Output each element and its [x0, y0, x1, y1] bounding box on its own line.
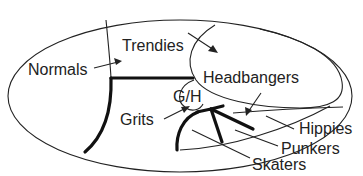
- label-hippies: Hippies: [299, 120, 352, 137]
- label-trendies: Trendies: [122, 37, 184, 54]
- grits-arrow: [164, 106, 190, 119]
- headbangers-ellipse: [190, 25, 342, 108]
- peer-crowd-diagram: Normals Trendies Headbangers G/H Grits H…: [0, 0, 363, 176]
- punkers-leader: [235, 130, 278, 146]
- label-punkers: Punkers: [281, 140, 340, 157]
- label-headbangers: Headbangers: [203, 69, 299, 86]
- label-skaters: Skaters: [252, 156, 306, 173]
- headbangers-arrow: [245, 93, 261, 116]
- hippies-leader: [266, 116, 294, 129]
- normals-trendies-divider: [106, 20, 111, 78]
- label-grits: Grits: [120, 111, 154, 128]
- label-gh: G/H: [173, 88, 201, 105]
- label-normals: Normals: [28, 61, 88, 78]
- normals-arrow: [94, 58, 122, 68]
- hb-pk-junction: [211, 106, 223, 109]
- normals-grits-divider: [85, 78, 111, 152]
